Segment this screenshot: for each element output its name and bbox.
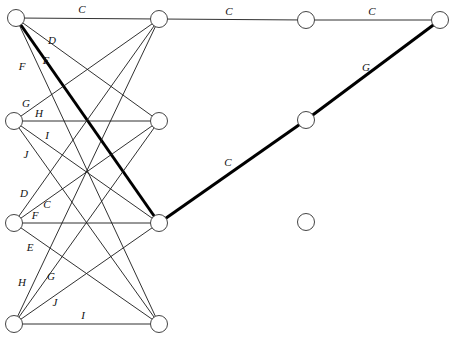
node-r3 [298,214,315,231]
edge-label: H [17,276,27,288]
node-r2 [298,112,315,129]
edge-label: C [78,3,86,15]
edge-label: G [22,97,30,109]
edge-m1-r1 [159,19,306,20]
edge-label: C [43,198,51,210]
graph-diagram: CDEFGHIJDCFEHGJICCCG [0,0,456,341]
edges-layer [14,18,440,324]
edge-label: I [44,129,50,141]
node-l2 [6,113,23,130]
node-m4 [151,316,168,333]
edge-label: F [18,60,26,72]
edge-label: J [53,296,59,308]
edge-label: E [26,241,34,253]
edge-l1-m1 [16,18,159,19]
node-l1 [8,10,25,27]
node-f1 [432,12,449,29]
edge-label: C [368,5,376,17]
edge-label: D [19,187,28,199]
node-r1 [298,12,315,29]
edge-m3-r2 [159,120,306,223]
edge-r2-f1 [306,20,440,120]
node-l3 [6,215,23,232]
edge-labels-layer: CDEFGHIJDCFEHGJICCCG [17,3,376,321]
node-m1 [151,11,168,28]
edge-label: C [224,156,232,168]
node-l4 [6,316,23,333]
node-m2 [151,113,168,130]
edge-label: F [31,209,39,221]
edge-label: D [47,34,56,46]
edge-label: I [80,309,86,321]
edge-label: G [362,61,370,73]
edge-label: J [24,148,30,160]
edge-label: G [47,270,55,282]
edge-label: H [34,107,44,119]
edge-label: E [42,54,50,66]
edge-label: C [225,5,233,17]
node-m3 [151,215,168,232]
